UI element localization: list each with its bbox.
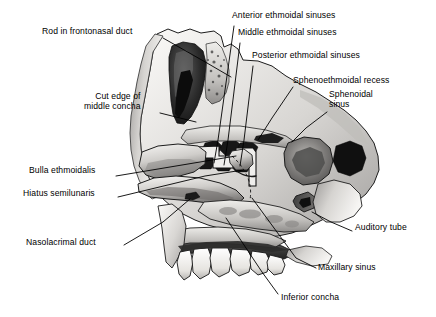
label-line-2: middle concha bbox=[84, 101, 141, 111]
tooth bbox=[267, 255, 285, 275]
label-hiatus-semilunaris: Hiatus semilunaris bbox=[23, 188, 95, 198]
label-cut-edge-of-middle-concha: Cut edge of middle concha bbox=[84, 91, 141, 111]
label-rod-in-frontonasal-duct: Rod in frontonasal duct bbox=[42, 26, 132, 36]
label-anterior-ethmoidal-sinuses: Anterior ethmoidal sinuses bbox=[232, 10, 336, 20]
label-sphenoidal-sinus: Sphenoidal sinus bbox=[329, 89, 373, 109]
label-bulla-ethmoidalis: Bulla ethmoidalis bbox=[29, 165, 95, 175]
label-inferior-concha: Inferior concha bbox=[281, 292, 339, 302]
label-maxillary-sinus: Maxillary sinus bbox=[318, 262, 376, 272]
figure-canvas: Rod in frontonasal duct Cut edge of midd… bbox=[0, 0, 436, 317]
label-line-1: Cut edge of bbox=[84, 91, 141, 101]
label-auditory-tube: Auditory tube bbox=[355, 222, 407, 232]
tooth bbox=[177, 250, 193, 280]
skull-sagittal-section bbox=[130, 29, 379, 280]
label-middle-ethmoidal-sinuses: Middle ethmoidal sinuses bbox=[238, 27, 337, 37]
sphenoid-foramen-dark bbox=[333, 141, 366, 176]
label-nasolacrimal-duct: Nasolacrimal duct bbox=[26, 237, 96, 247]
tooth bbox=[192, 248, 212, 279]
label-sphenoethmoidal-recess: Sphenoethmoidal recess bbox=[293, 75, 389, 85]
label-line-2: sinus bbox=[329, 99, 373, 109]
tooth bbox=[210, 248, 232, 277]
label-line-1: Sphenoidal bbox=[329, 89, 373, 99]
label-posterior-ethmoidal-sinuses: Posterior ethmoidal sinuses bbox=[252, 50, 360, 60]
tooth bbox=[230, 249, 252, 276]
